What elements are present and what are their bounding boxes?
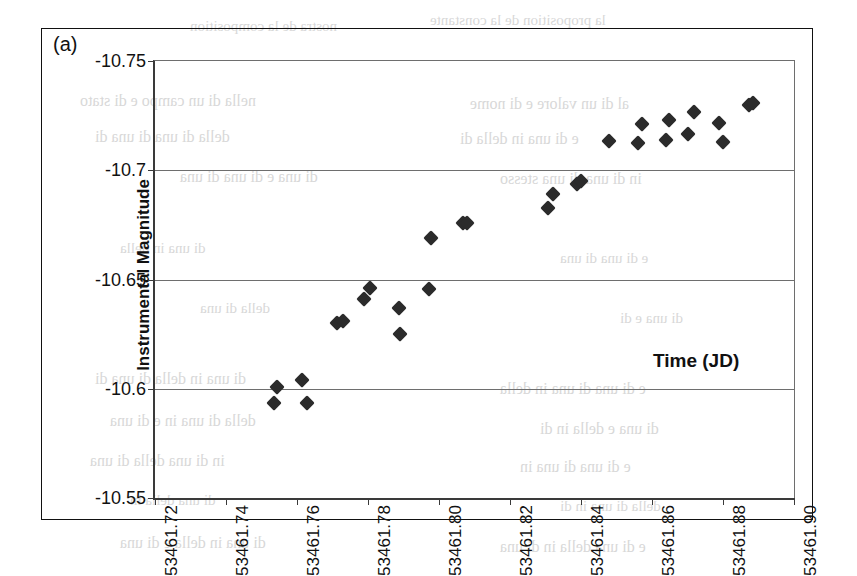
data-point-marker	[266, 395, 282, 411]
y-axis-tick	[148, 498, 155, 499]
data-point-marker	[421, 281, 437, 297]
y-axis-tick	[148, 280, 155, 281]
x-axis-tick	[439, 498, 440, 505]
x-axis-tick	[297, 498, 298, 505]
data-point-marker	[601, 133, 617, 149]
x-axis-tick-label: 53461.88	[730, 505, 750, 576]
x-axis-tick-label: 53461.78	[375, 505, 395, 576]
y-gridline	[155, 389, 794, 390]
data-point-marker	[392, 326, 408, 342]
data-point-marker	[423, 230, 439, 246]
x-axis-tick	[155, 498, 156, 505]
y-gridline	[155, 280, 794, 281]
y-axis-tick	[148, 61, 155, 62]
data-point-marker	[541, 200, 557, 216]
data-point-marker	[661, 112, 677, 128]
data-point-marker	[294, 372, 310, 388]
x-axis-tick-label: 53461.84	[588, 505, 608, 576]
x-axis-tick-label: 53461.74	[233, 505, 253, 576]
data-point-marker	[680, 126, 696, 142]
x-axis-tick	[652, 498, 653, 505]
x-axis-tick	[226, 498, 227, 505]
y-gridline	[155, 170, 794, 171]
x-axis-tick	[510, 498, 511, 505]
y-axis-tick	[148, 389, 155, 390]
x-axis-tick-label: 53461.82	[517, 505, 537, 576]
data-point-marker	[715, 134, 731, 150]
data-point-marker	[391, 300, 407, 316]
x-axis-tick-label: 53461.80	[446, 505, 466, 576]
y-axis-tick-label: -10.75	[95, 51, 146, 72]
x-axis-tick-label: 53461.90	[801, 505, 821, 576]
x-axis-tick-label: 53461.72	[162, 505, 182, 576]
x-axis-tick	[723, 498, 724, 505]
y-axis-tick-label: -10.65	[95, 269, 146, 290]
x-axis-tick	[368, 498, 369, 505]
panel-label: (a)	[53, 33, 77, 56]
data-point-marker	[299, 395, 315, 411]
plot-area: -10.75-10.7-10.65-10.6-10.5553461.725346…	[153, 60, 795, 500]
y-axis-tick-label: -10.6	[105, 378, 146, 399]
data-point-marker	[686, 105, 702, 121]
data-point-marker	[630, 135, 646, 151]
data-point-marker	[270, 379, 286, 395]
y-axis-tick	[148, 170, 155, 171]
x-axis-tick-label: 53461.76	[304, 505, 324, 576]
data-point-marker	[634, 117, 650, 133]
x-axis-tick	[581, 498, 582, 505]
x-axis-tick	[794, 498, 795, 505]
data-point-marker	[712, 115, 728, 131]
y-axis-tick-label: -10.55	[95, 488, 146, 509]
y-axis-tick-label: -10.7	[105, 160, 146, 181]
data-point-marker	[658, 132, 674, 148]
x-axis-tick-label: 53461.86	[659, 505, 679, 576]
